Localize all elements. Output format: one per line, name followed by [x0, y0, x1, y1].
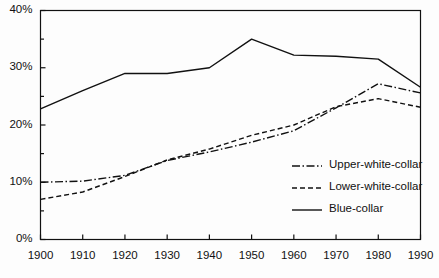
x-tick-label: 1920 — [103, 249, 147, 261]
legend-label: Blue-collar — [329, 202, 383, 214]
y-tick-label: 0% — [0, 232, 33, 244]
x-tick-label: 1910 — [61, 249, 105, 261]
legend-label: Lower-white-collar — [329, 180, 422, 192]
x-tick-label: 1970 — [314, 249, 358, 261]
y-tick-label: 10% — [0, 175, 33, 187]
x-tick-label: 1900 — [19, 249, 63, 261]
x-tick-label: 1960 — [272, 249, 316, 261]
x-tick-label: 1930 — [145, 249, 189, 261]
x-tick-label: 1990 — [399, 249, 439, 261]
x-tick-label: 1940 — [187, 249, 231, 261]
y-tick-label: 20% — [0, 118, 33, 130]
chart-canvas — [0, 0, 439, 278]
y-tick-label: 40% — [0, 3, 33, 15]
x-tick-label: 1980 — [356, 249, 400, 261]
y-tick-label: 30% — [0, 60, 33, 72]
series-line-blue-collar — [41, 39, 421, 109]
x-tick-label: 1950 — [230, 249, 274, 261]
legend-label: Upper-white-collar — [329, 158, 422, 170]
line-chart: 0%10%20%30%40%19001910192019301940195019… — [0, 0, 439, 278]
